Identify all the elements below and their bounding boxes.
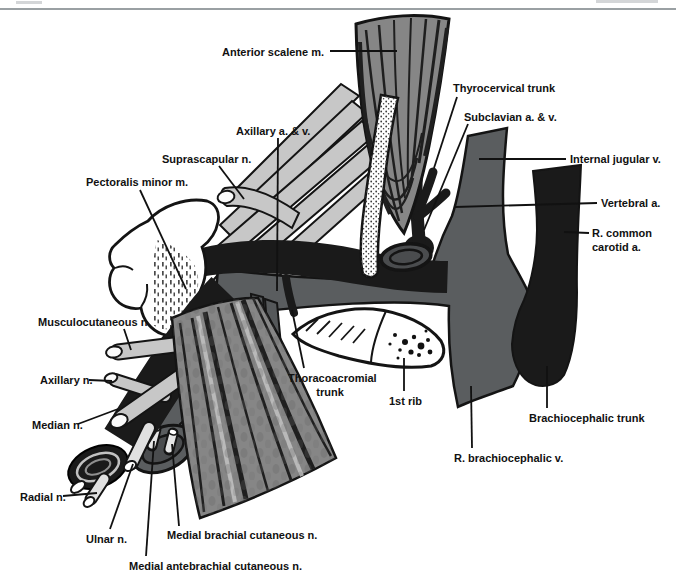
carotid-and-brachiocephalic-trunk-shape <box>512 165 581 386</box>
leader-axillary-a-v <box>277 138 278 291</box>
anatomical-figure: Anterior scalene m.Axillary a. & v.Supra… <box>0 0 676 582</box>
leader-r-common-carotid-a <box>564 232 589 233</box>
leader-axillary-n <box>89 380 112 381</box>
illustration-canvas <box>0 0 676 582</box>
first-rib-shape <box>293 309 444 368</box>
leader-r-brachiocephalic-v <box>471 386 472 448</box>
figure-page: Anterior scalene m.Axillary a. & v.Supra… <box>0 0 676 582</box>
